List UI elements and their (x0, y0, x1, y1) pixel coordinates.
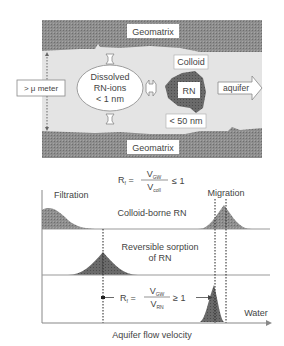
svg-text:VRN: VRN (150, 299, 164, 310)
svg-text:Vcoll: Vcoll (147, 182, 161, 193)
dissolved-label-1: Dissolved (90, 72, 129, 82)
svg-text:≤ 1: ≤ 1 (172, 176, 184, 186)
dissolved-label-2: RN-ions (94, 83, 127, 93)
water-peak (200, 285, 224, 322)
formula-colloid-retardation: Rf = VGW Vcoll ≤ 1 (118, 169, 184, 193)
colloid-transport-diagram: Geomatrix Geomatrix > μ meter Dissolved … (0, 0, 284, 346)
pore-diagram: Geomatrix Geomatrix > μ meter Dissolved … (17, 20, 262, 158)
velocity-chart: Rf = VGW Vcoll ≤ 1 Filtration Migration … (42, 169, 272, 340)
colloid-label: Colloid (177, 57, 205, 67)
svg-text:VGW: VGW (150, 286, 165, 297)
svg-text:Rf =: Rf = (118, 175, 134, 186)
migration-label: Migration (207, 188, 244, 198)
dissolved-label-3: < 1 nm (96, 94, 124, 104)
geomatrix-bottom-label: Geomatrix (132, 143, 174, 153)
filtration-peak (42, 208, 100, 229)
svg-text:Rf =: Rf = (120, 293, 136, 304)
aquifer-label: aquifer (223, 83, 249, 93)
svg-text:VGW: VGW (147, 169, 162, 180)
row1-label: Colloid-borne RN (117, 208, 186, 218)
formula-rn-retardation: Rf = VGW VRN ≥ 1 (120, 286, 185, 310)
colloid-core-label: RN (183, 86, 196, 96)
colloid-size-label: < 50 nm (170, 116, 203, 126)
x-axis-arrow-icon (266, 320, 272, 326)
x-axis-label: Aquifer flow velocity (112, 330, 192, 340)
row2-label-2: of RN (148, 253, 171, 263)
geomatrix-top-label: Geomatrix (132, 27, 174, 37)
svg-text:≥ 1: ≥ 1 (173, 293, 185, 303)
filtration-label: Filtration (54, 190, 89, 200)
aperture-label: > μ meter (24, 84, 59, 93)
retardation-arrow-start-icon (101, 296, 105, 299)
water-label: Water (244, 308, 268, 318)
colloid-migration-peak (198, 205, 252, 229)
row2-label-1: Reversible sorption (121, 242, 198, 252)
